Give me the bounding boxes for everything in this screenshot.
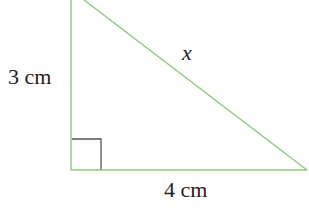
hypotenuse-label: x — [181, 40, 192, 65]
vertical-leg-label: 3 cm — [8, 64, 51, 89]
right-angle-marker — [72, 139, 101, 170]
triangle-figure: 3 cm 4 cm x — [0, 0, 309, 216]
horizontal-leg-label: 4 cm — [164, 177, 207, 202]
diagram: 3 cm 4 cm x — [0, 0, 309, 216]
hypotenuse — [84, 0, 307, 170]
